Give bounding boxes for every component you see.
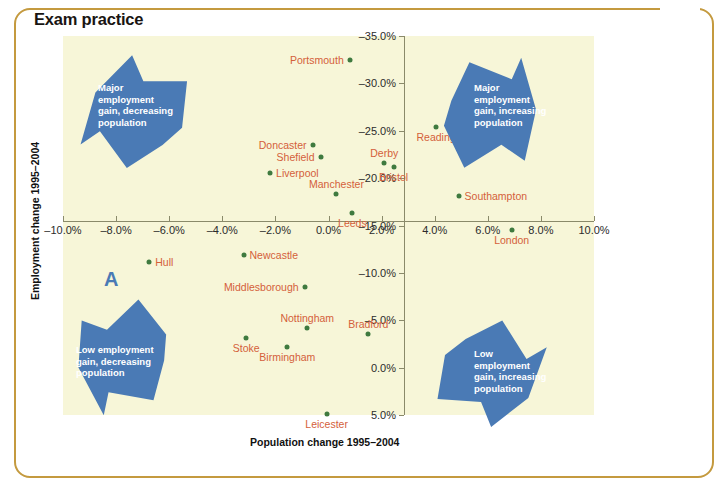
data-point-label: Birmingham (259, 351, 315, 363)
data-point-label: Derby (370, 147, 398, 159)
quadrant-top-left-arrow: Major employment gain, decreasing popula… (74, 52, 199, 178)
x-tick-label: –8.0% (100, 224, 131, 236)
data-point-label: Portsmouth (290, 54, 344, 66)
x-tick (63, 216, 64, 221)
y-tick (399, 320, 404, 321)
data-point[interactable] (147, 259, 152, 264)
data-point[interactable] (285, 344, 290, 349)
x-tick (488, 216, 489, 221)
y-tick-label: 5.0% (371, 409, 396, 421)
data-point-label: Leicester (305, 418, 348, 430)
x-tick (169, 216, 170, 221)
x-tick-label: 8.0% (528, 224, 553, 236)
y-tick (399, 131, 404, 132)
data-point[interactable] (347, 57, 352, 62)
x-tick (541, 216, 542, 221)
data-point[interactable] (310, 142, 315, 147)
y-tick (399, 36, 404, 37)
y-tick (399, 273, 404, 274)
y-tick-label: –25.0% (359, 125, 396, 137)
data-point-label: Stoke (233, 342, 260, 354)
data-point[interactable] (318, 155, 323, 160)
y-tick-label: –30.0% (359, 77, 396, 89)
quadrant-top-right-text: Major employment gain, increasing popula… (474, 82, 546, 128)
x-tick (275, 216, 276, 221)
data-point[interactable] (305, 325, 310, 330)
data-point[interactable] (366, 331, 371, 336)
data-point[interactable] (268, 171, 273, 176)
quadrant-bottom-right-arrow: Low employment gain, increasing populati… (432, 312, 557, 430)
y-tick (399, 368, 404, 369)
x-tick-label: 4.0% (422, 224, 447, 236)
x-tick-label: –6.0% (154, 224, 185, 236)
data-point-label: Southampton (465, 190, 527, 202)
data-point[interactable] (382, 160, 387, 165)
x-tick-label: 10.0% (578, 224, 609, 236)
y-tick (399, 226, 404, 227)
data-point[interactable] (244, 336, 249, 341)
data-point-label: Shefield (277, 151, 315, 163)
quadrant-bottom-left-text: Low employment gain, decreasing populati… (76, 344, 154, 379)
data-point[interactable] (350, 211, 355, 216)
data-point[interactable] (391, 164, 396, 169)
data-point-label: Manchester (309, 178, 364, 190)
quadrant-top-right-arrow: Major employment gain, increasing popula… (432, 50, 557, 176)
x-tick-label: –2.0% (260, 224, 291, 236)
y-tick (399, 415, 404, 416)
data-point-label: Doncaster (259, 139, 307, 151)
data-point-label: London (494, 234, 529, 246)
data-point[interactable] (456, 194, 461, 199)
x-axis-title: Population change 1995–2004 (250, 436, 399, 448)
quadrant-bottom-right-text: Low employment gain, increasing populati… (474, 348, 546, 394)
x-tick-label: –10.0% (44, 224, 81, 236)
data-point-label: Bradford (348, 318, 388, 330)
data-point-label: Hull (155, 256, 173, 268)
x-tick (222, 216, 223, 221)
y-tick-label: 0.0% (371, 362, 396, 374)
y-axis-title: Employment change 1995–2004 (29, 141, 41, 301)
data-point[interactable] (324, 412, 329, 417)
y-axis-line (404, 36, 405, 415)
x-tick (329, 216, 330, 221)
x-axis-line (63, 221, 594, 222)
data-point[interactable] (302, 285, 307, 290)
quadrant-top-left-text: Major employment gain, decreasing popula… (98, 82, 173, 128)
data-point[interactable] (241, 252, 246, 257)
x-tick-label: –4.0% (207, 224, 238, 236)
data-point-label: Leeds (338, 217, 367, 229)
figure-marker-a: A (104, 268, 118, 291)
y-tick (399, 83, 404, 84)
data-point-label: Newcastle (250, 249, 298, 261)
x-tick (594, 216, 595, 221)
data-point[interactable] (509, 228, 514, 233)
quadrant-bottom-left-arrow: Low employment gain, decreasing populati… (62, 298, 187, 416)
data-point-label: Bristol (379, 171, 408, 183)
x-tick (435, 216, 436, 221)
y-tick-label: –35.0% (359, 30, 396, 42)
x-tick (116, 216, 117, 221)
data-point-label: Middlesborough (224, 281, 299, 293)
data-point-label: Nottingham (280, 312, 334, 324)
data-point[interactable] (334, 192, 339, 197)
y-tick-label: –10.0% (359, 267, 396, 279)
